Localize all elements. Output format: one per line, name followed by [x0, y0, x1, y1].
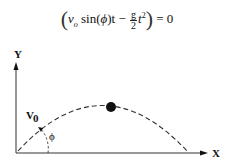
y-axis-label: Y — [14, 48, 22, 60]
projectile-ball — [106, 102, 116, 112]
velocity-sub-label: 0 — [33, 112, 39, 124]
x-axis-label: X — [212, 147, 220, 159]
angle-arc — [40, 128, 48, 153]
trajectory-path — [18, 106, 187, 152]
y-axis-arrow-icon — [14, 62, 19, 70]
x-axis-arrow-icon — [200, 151, 208, 156]
angle-label: ϕ — [49, 130, 55, 142]
projectile-diagram: Y X V 0 ϕ — [0, 0, 234, 165]
